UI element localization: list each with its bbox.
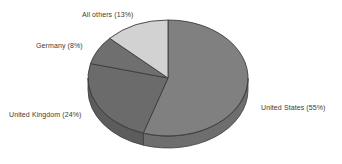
slice-label-united-states: United States (55%): [261, 103, 326, 112]
slice-label-all-others: All others (13%): [82, 10, 133, 19]
pie-chart-graphic: [0, 0, 342, 164]
pie-top-faces: [88, 20, 248, 136]
slice-label-germany: Germany (8%): [36, 41, 83, 50]
pie-chart: All others (13%) Germany (8%) United Kin…: [0, 0, 342, 164]
slice-label-united-kingdom: United Kingdom (24%): [9, 110, 81, 119]
